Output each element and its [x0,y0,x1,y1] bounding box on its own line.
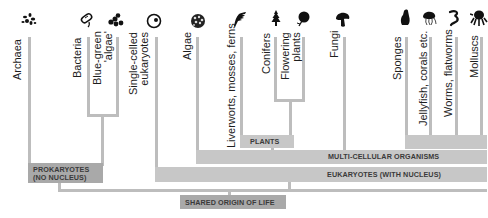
octopus-icon [470,9,488,27]
worms-branch [455,37,458,137]
label-flowering: Floweringplants [280,32,302,80]
algae-icon [189,12,207,30]
eukaryotes-stem [288,182,291,190]
cyanobacteria-icon [106,12,124,30]
flowering-branch [302,37,305,101]
molluscs-branch [480,37,483,137]
label-liverworts: Liverworts, mosses, ferns [226,23,237,148]
bacteria-branch [87,37,90,117]
blue-green-branch [116,37,119,117]
liverworts-branch [240,37,243,137]
single-celled-branch [155,37,158,170]
mushroom-icon [334,11,352,29]
label-sponges: Sponges [392,37,403,80]
jellyfish-branch [429,37,432,137]
prokaryotes-label: PROKARYOTES (NO NUCLEUS) [33,166,89,182]
conifer-icon [267,9,285,27]
label-algae: Algae [182,32,193,60]
flower-icon [294,10,312,28]
worm-icon [446,9,464,27]
sponges-branch [405,37,408,137]
fern-icon [230,10,248,28]
bacteria-stem [101,114,104,166]
algae-branch [196,37,199,152]
label-blue-green: Blue-green'algae' [92,31,114,85]
label-archaea: Archaea [12,39,23,80]
label-bacteria: Bacteria [72,38,83,78]
animals-band [405,135,487,149]
plants-label: PLANTS [250,138,279,146]
archaea-branch [28,37,31,165]
label-molluscs: Molluscs [469,35,480,78]
label-conifers: Conifers [261,33,272,74]
bacteria-icon [78,11,96,29]
eukaryotes-label: EUKARYOTES (WITH NUCLEUS) [327,171,441,179]
jellyfish-icon [421,9,439,27]
fungi-branch [343,37,346,152]
sponge-icon [397,8,415,26]
archaea-icon [20,11,38,29]
cell-icon [145,12,163,30]
label-fungi: Fungi [329,30,340,58]
label-single-celled: Single-celledeukaryotes [128,32,150,95]
conifers-branch [274,37,277,101]
seed-plants-stem [289,99,292,135]
label-worms: Worms, flatworms [443,29,454,117]
origin-label: SHARED ORIGIN OF LIFE [185,199,275,207]
label-jellyfish: Jellyfish, corals etc. [418,31,429,126]
multicellular-label: MULTI-CELLULAR ORGANISMS [328,153,439,161]
origin-horizontal [58,189,487,192]
